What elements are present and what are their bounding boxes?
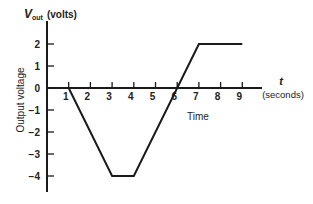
x-tick-label: 5	[150, 91, 156, 102]
y-tick-label: −2	[29, 127, 41, 138]
y-tick-label: −1	[29, 105, 41, 116]
axes	[47, 21, 262, 192]
y-axis-title: Vout(volts)	[24, 7, 77, 21]
x-tick-label: 1	[63, 91, 69, 102]
x-tick-label: 9	[237, 91, 243, 102]
x-tick-label: 3	[106, 91, 112, 102]
axis-labels: Vout(volts) Output voltage t (seconds) T…	[15, 7, 304, 133]
x-axis-title: Time	[187, 111, 209, 122]
y-tick-label: 2	[34, 39, 40, 50]
axis-ticks: 123456789210−1−2−3−4	[29, 39, 243, 182]
y-tick-label: 0	[34, 83, 40, 94]
y-tick-label: −3	[29, 149, 41, 160]
vout-waveform	[47, 44, 242, 176]
y-axis-side-label: Output voltage	[15, 67, 26, 132]
x-tick-label: 7	[193, 91, 199, 102]
x-tick-label: 2	[85, 91, 91, 102]
data-series	[47, 44, 242, 176]
x-tick-label: 8	[215, 91, 221, 102]
x-axis-unit: (seconds)	[262, 89, 304, 100]
voltage-time-chart: 123456789210−1−2−3−4 Vout(volts) Output …	[0, 0, 313, 204]
x-tick-label: 4	[128, 91, 134, 102]
y-tick-label: 1	[34, 61, 40, 72]
x-axis-variable: t	[279, 75, 284, 87]
y-tick-label: −4	[29, 171, 41, 182]
